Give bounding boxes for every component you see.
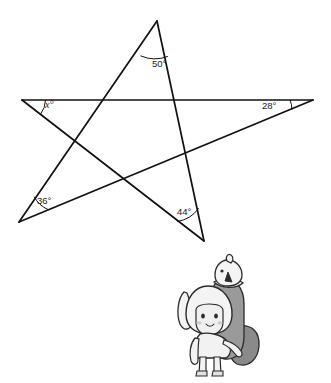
cartoon-illustration bbox=[178, 254, 259, 376]
edge-left-to-bottom-right bbox=[22, 100, 204, 241]
penguin-eye bbox=[220, 269, 223, 272]
geometry-figure: 50° 28° 44° 36° x° bbox=[0, 0, 331, 383]
angle-label-bottom-left: 36° bbox=[37, 195, 52, 206]
angle-label-bottom-right: 44° bbox=[177, 206, 192, 217]
child-arm-left bbox=[190, 338, 199, 364]
edge-top-to-bottom-left bbox=[19, 21, 157, 222]
child-eye-right bbox=[214, 313, 218, 318]
angle-label-left-unknown: x° bbox=[44, 99, 53, 110]
child-face bbox=[196, 304, 223, 335]
angle-labels: 50° 28° 44° 36° x° bbox=[37, 58, 277, 217]
angle-label-top: 50° bbox=[152, 58, 167, 69]
star-edges bbox=[19, 21, 313, 241]
angle-label-right: 28° bbox=[262, 100, 277, 111]
child-cheek-left bbox=[196, 321, 201, 325]
child-shoe-left bbox=[196, 371, 207, 376]
child-cheek-right bbox=[217, 321, 222, 325]
edge-bottom-left-to-right bbox=[19, 100, 313, 222]
child-eye-left bbox=[201, 313, 205, 318]
penguin-tuft bbox=[226, 254, 233, 263]
angle-arc-right bbox=[290, 100, 292, 110]
child-shoe-right bbox=[212, 371, 223, 376]
star-diagram-svg: 50° 28° 44° 36° x° bbox=[0, 0, 331, 383]
